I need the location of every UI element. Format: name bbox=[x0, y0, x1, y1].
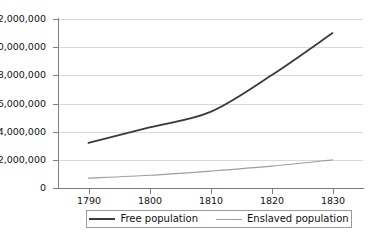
legend-swatch-free-population-icon bbox=[89, 218, 115, 220]
legend-label-free-population: Free population bbox=[120, 213, 198, 225]
legend-item-free-population: Free population bbox=[89, 213, 198, 225]
line-chart: 12,000,00010,000,0008,000,0006,000,0004,… bbox=[0, 0, 377, 232]
chart-legend: Free population Enslaved population bbox=[86, 210, 352, 228]
legend-label-enslaved-population: Enslaved population bbox=[247, 213, 349, 225]
series-line-enslaved-population bbox=[89, 160, 333, 178]
legend-swatch-enslaved-population-icon bbox=[216, 219, 242, 220]
data-series-layer bbox=[0, 0, 377, 232]
legend-item-enslaved-population: Enslaved population bbox=[216, 213, 349, 225]
series-line-free-population bbox=[89, 33, 333, 143]
